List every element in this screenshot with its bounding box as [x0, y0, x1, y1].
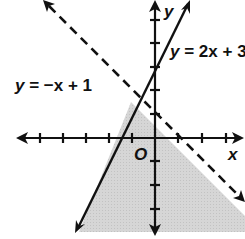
origin-label: O	[134, 145, 147, 164]
x-axis-label: x	[227, 145, 239, 164]
label-line-neg-x-plus-1: y = −x + 1	[14, 76, 92, 95]
graph-canvas: y = 2x + 3 y = −x + 1 y x O	[0, 0, 245, 239]
y-axis-label: y	[163, 2, 175, 21]
shaded-region	[79, 102, 245, 232]
label-line-2x-plus-3: y = 2x + 3	[169, 42, 245, 61]
